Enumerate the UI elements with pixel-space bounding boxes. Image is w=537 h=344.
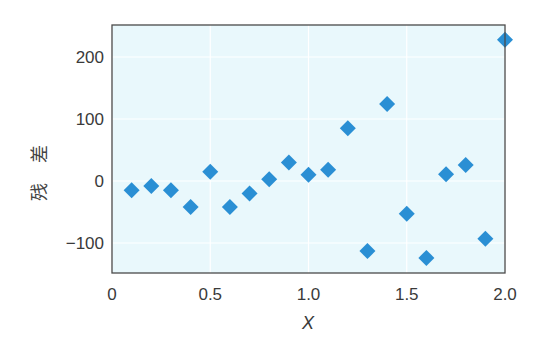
y-axis-title-char: 残 bbox=[29, 183, 50, 201]
y-axis-title: 残差 bbox=[29, 145, 50, 201]
x-tick-label: 1.5 bbox=[395, 285, 419, 304]
x-tick-label: 2.0 bbox=[493, 285, 517, 304]
y-axis-ticks: −1000100200 bbox=[66, 48, 104, 253]
x-axis-ticks: 00.51.01.52.0 bbox=[107, 285, 517, 304]
x-tick-label: 1.0 bbox=[297, 285, 321, 304]
x-tick-label: 0.5 bbox=[198, 285, 222, 304]
x-axis-title: X bbox=[301, 313, 315, 333]
y-axis-title-char: 差 bbox=[29, 145, 50, 163]
x-tick-label: 0 bbox=[107, 285, 116, 304]
y-tick-label: −100 bbox=[66, 234, 104, 253]
scatter-chart: 00.51.01.52.0 −1000100200 X 残差 bbox=[0, 0, 537, 344]
y-tick-label: 200 bbox=[76, 48, 104, 67]
y-tick-label: 100 bbox=[76, 110, 104, 129]
y-tick-label: 0 bbox=[95, 172, 104, 191]
